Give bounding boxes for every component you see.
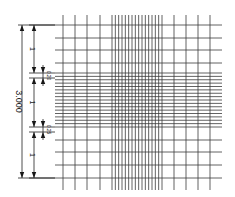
- overall-dimension-label: 3.000: [14, 90, 24, 113]
- dimension-annotations: 3.000 1 1 1 0.20 0.25: [14, 25, 55, 178]
- segment-dimension-label: 1: [29, 153, 36, 157]
- segment-dimension-label: 1: [29, 101, 36, 105]
- grid-drawing: 3.000 1 1 1 0.20 0.25: [0, 0, 235, 197]
- counting-grid: [55, 15, 222, 190]
- small-gap-dimension-label: 0.25: [46, 125, 52, 135]
- segment-dimension-label: 1: [29, 47, 36, 51]
- small-gap-dimension-label: 0.20: [46, 71, 52, 81]
